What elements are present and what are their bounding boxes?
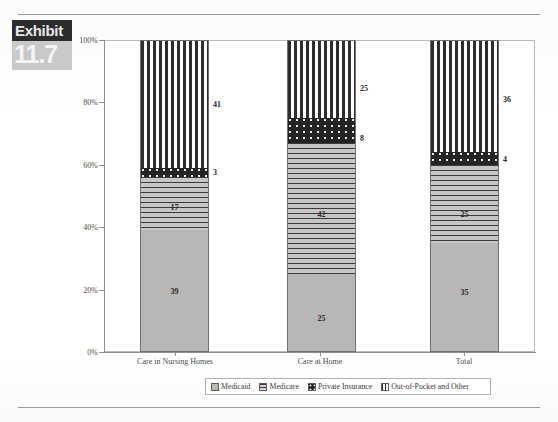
y-tick-label-80: 80% xyxy=(58,98,98,107)
bar-segment-medicaid[interactable] xyxy=(430,243,499,352)
exhibit-badge: Exhibit 11.7 xyxy=(12,20,72,70)
bar-segment-out-of-pocket-and-other[interactable] xyxy=(140,40,209,168)
y-tick-mark-20 xyxy=(99,290,104,291)
legend-item-out-of-pocket-and-other[interactable]: Out-of-Pocket and Other xyxy=(381,382,469,391)
exhibit-number: 11.7 xyxy=(14,39,57,70)
top-divider-rule xyxy=(18,14,540,15)
bar-care-in-nursing-homes[interactable] xyxy=(140,40,209,352)
bar-value-out-of-pocket-2: 25 xyxy=(360,84,368,93)
chart-legend: Medicaid Medicare Private Insurance Out-… xyxy=(205,378,491,395)
y-tick-mark-60 xyxy=(99,165,104,166)
bar-value-medicaid-2: 25 xyxy=(287,314,356,323)
y-tick-mark-100 xyxy=(99,40,104,41)
y-tick-label-100: 100% xyxy=(58,36,98,45)
bar-value-out-of-pocket-1: 41 xyxy=(213,100,221,109)
y-tick-mark-80 xyxy=(99,102,104,103)
bar-segment-out-of-pocket-and-other[interactable] xyxy=(430,40,499,152)
legend-label-private-insurance: Private Insurance xyxy=(318,382,372,391)
bar-segment-medicare[interactable] xyxy=(287,143,356,274)
y-tick-label-20: 20% xyxy=(58,286,98,295)
legend-label-medicaid: Medicaid xyxy=(221,382,250,391)
bar-value-medicare-2: 42 xyxy=(287,210,356,219)
x-tick-mark-2 xyxy=(320,352,321,356)
x-tick-mark-3 xyxy=(464,352,465,356)
legend-label-medicare: Medicare xyxy=(269,382,298,391)
x-category-label-2: Care at Home xyxy=(265,357,375,366)
legend-item-medicare[interactable]: Medicare xyxy=(259,382,298,391)
bar-value-private-insurance-2: 8 xyxy=(360,134,364,143)
bar-total[interactable] xyxy=(430,40,499,352)
bar-care-at-home[interactable] xyxy=(287,40,356,352)
bar-value-medicaid-3: 35 xyxy=(430,288,499,297)
bar-segment-private-insurance[interactable] xyxy=(287,118,356,143)
legend-swatch-private-insurance-icon xyxy=(308,383,316,391)
bar-value-private-insurance-1: 3 xyxy=(213,168,217,177)
bar-value-medicaid-1: 39 xyxy=(140,287,209,296)
y-tick-label-0: 0% xyxy=(58,348,98,357)
legend-swatch-medicare-icon xyxy=(259,383,267,391)
exhibit-word: Exhibit xyxy=(15,21,63,40)
bar-segment-private-insurance[interactable] xyxy=(140,168,209,177)
y-tick-mark-40 xyxy=(99,227,104,228)
bar-segment-medicare[interactable] xyxy=(430,165,499,243)
bar-value-out-of-pocket-3: 36 xyxy=(503,95,511,104)
x-category-label-1: Care in Nursing Homes xyxy=(120,357,230,366)
bar-value-medicare-3: 25 xyxy=(430,210,499,219)
y-axis-line xyxy=(104,40,105,353)
legend-swatch-medicaid-icon xyxy=(211,383,219,391)
y-tick-label-40: 40% xyxy=(58,223,98,232)
bar-segment-private-insurance[interactable] xyxy=(430,152,499,165)
bar-segment-out-of-pocket-and-other[interactable] xyxy=(287,40,356,118)
bar-value-private-insurance-3: 4 xyxy=(503,155,507,164)
legend-item-medicaid[interactable]: Medicaid xyxy=(211,382,250,391)
y-tick-mark-0 xyxy=(99,352,104,353)
legend-label-out-of-pocket-and-other: Out-of-Pocket and Other xyxy=(391,382,469,391)
x-category-label-3: Total xyxy=(409,357,519,366)
exhibit-page: Exhibit 11.7 100% 80% 60% 40% 20% 0% 41 … xyxy=(0,0,558,422)
exhibit-badge-number-band: 11.7 xyxy=(12,41,72,70)
bar-value-medicare-1: 17 xyxy=(140,203,209,212)
x-tick-mark-1 xyxy=(175,352,176,356)
y-tick-label-60: 60% xyxy=(58,161,98,170)
legend-swatch-out-of-pocket-icon xyxy=(381,383,389,391)
bottom-divider-rule xyxy=(18,407,540,408)
bar-segment-medicaid[interactable] xyxy=(287,274,356,352)
legend-item-private-insurance[interactable]: Private Insurance xyxy=(308,382,372,391)
